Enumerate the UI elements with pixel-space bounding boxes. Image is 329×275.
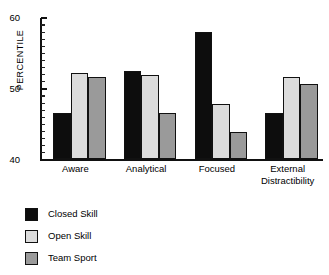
bars-layer: [40, 18, 323, 160]
y-tick-label: 40: [0, 155, 20, 165]
bar: [195, 32, 213, 159]
y-tick-label: 50: [0, 84, 20, 94]
x-axis-category-label: Analytical: [111, 163, 182, 175]
x-axis-category-labels: AwareAnalyticalFocusedExternalDistractib…: [40, 163, 323, 193]
bar: [88, 77, 106, 159]
bar: [53, 113, 71, 159]
legend-item[interactable]: Closed Skill: [25, 203, 225, 225]
legend-item[interactable]: Open Skill: [25, 225, 225, 247]
x-axis-category-label-line: Focused: [199, 163, 235, 174]
bar: [265, 113, 283, 159]
y-tick-label: 60: [0, 13, 20, 23]
bar: [159, 113, 177, 159]
legend-item-label: Team Sport: [48, 253, 97, 263]
x-axis-category-label-line: Distractibility: [252, 175, 323, 187]
bar: [141, 75, 159, 159]
legend-item[interactable]: Team Sport: [25, 247, 225, 269]
bar: [212, 104, 230, 159]
legend-swatch-icon: [25, 208, 38, 221]
legend: Closed SkillOpen SkillTeam Sport: [25, 203, 225, 269]
x-axis-category-label-line: External: [270, 163, 305, 174]
y-axis-title: PERCENTILE: [15, 10, 25, 110]
x-axis-category-label: Aware: [40, 163, 111, 175]
bar: [71, 73, 89, 159]
bar: [124, 71, 142, 159]
legend-swatch-icon: [25, 252, 38, 265]
x-axis-category-label: Focused: [182, 163, 253, 175]
plot-area: 605040: [40, 18, 323, 160]
legend-item-label: Closed Skill: [48, 209, 98, 219]
bar-chart-figure: PERCENTILE 605040 AwareAnalyticalFocused…: [0, 0, 329, 275]
x-axis-category-label: ExternalDistractibility: [252, 163, 323, 186]
legend-swatch-icon: [25, 230, 38, 243]
bar: [300, 84, 318, 159]
bar: [230, 132, 248, 159]
bar: [283, 77, 301, 159]
legend-item-label: Open Skill: [48, 231, 91, 241]
x-axis-category-label-line: Analytical: [126, 163, 167, 174]
x-axis-category-label-line: Aware: [62, 163, 89, 174]
